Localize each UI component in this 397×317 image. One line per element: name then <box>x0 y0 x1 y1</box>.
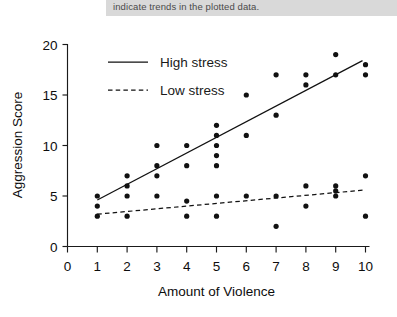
data-point <box>363 173 368 178</box>
data-point <box>214 163 219 168</box>
x-tick-label: 3 <box>153 259 161 274</box>
data-point <box>333 193 338 198</box>
y-tick-label: 5 <box>50 189 58 204</box>
data-point <box>214 133 219 138</box>
data-point <box>125 173 130 178</box>
data-point <box>214 193 219 198</box>
data-point <box>214 143 219 148</box>
data-point <box>214 123 219 128</box>
y-tick-label: 20 <box>42 38 57 53</box>
trend-line-low-stress <box>97 190 365 214</box>
data-point <box>125 183 130 188</box>
data-point <box>154 193 159 198</box>
x-tick-label: 10 <box>358 259 373 274</box>
x-tick-label: 5 <box>213 259 221 274</box>
x-tick-label: 2 <box>123 259 131 274</box>
y-tick-label: 15 <box>42 88 57 103</box>
data-point <box>154 173 159 178</box>
scatter-plot-figure: 05101520012345678910Amount of ViolenceAg… <box>0 0 397 317</box>
x-tick-label: 7 <box>272 259 280 274</box>
legend-label: Low stress <box>160 83 225 98</box>
points-high-stress <box>95 52 368 199</box>
data-point <box>303 183 308 188</box>
data-point <box>184 163 189 168</box>
x-tick-label: 6 <box>243 259 251 274</box>
data-point <box>95 193 100 198</box>
data-point <box>303 82 308 87</box>
data-point <box>184 143 189 148</box>
data-point <box>333 183 338 188</box>
data-point <box>244 92 249 97</box>
x-tick-label: 8 <box>302 259 310 274</box>
data-point <box>125 214 130 219</box>
trend-line-high-stress <box>97 61 362 200</box>
data-point <box>184 214 189 219</box>
data-point <box>184 198 189 203</box>
y-axis-title: Aggression Score <box>10 92 25 199</box>
x-tick-label: 1 <box>94 259 102 274</box>
data-point <box>154 163 159 168</box>
data-point <box>333 52 338 57</box>
x-axis-title: Amount of Violence <box>158 284 275 299</box>
data-point <box>274 72 279 77</box>
x-tick-label: 9 <box>332 259 340 274</box>
x-tick-label: 0 <box>64 259 72 274</box>
data-point <box>95 214 100 219</box>
data-point <box>95 204 100 209</box>
legend-label: High stress <box>160 55 228 70</box>
data-point <box>274 113 279 118</box>
data-point <box>274 193 279 198</box>
y-tick-label: 0 <box>50 240 58 255</box>
x-tick-label: 4 <box>183 259 191 274</box>
data-point <box>303 72 308 77</box>
data-point <box>214 153 219 158</box>
data-point <box>363 214 368 219</box>
chart-svg: 05101520012345678910Amount of ViolenceAg… <box>0 0 397 317</box>
data-point <box>363 62 368 67</box>
data-point <box>303 204 308 209</box>
points-low-stress <box>95 173 368 229</box>
data-point <box>125 193 130 198</box>
data-point <box>274 224 279 229</box>
data-point <box>333 188 338 193</box>
data-point <box>244 133 249 138</box>
y-tick-label: 10 <box>42 139 57 154</box>
data-point <box>154 143 159 148</box>
data-point <box>244 193 249 198</box>
data-point <box>363 72 368 77</box>
data-point <box>214 214 219 219</box>
data-point <box>333 72 338 77</box>
